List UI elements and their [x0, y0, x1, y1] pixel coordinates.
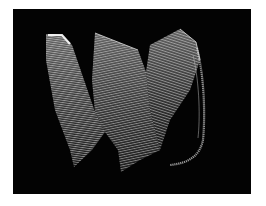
light-ribbon-graphic: [13, 9, 251, 194]
photo-frame: [13, 9, 251, 194]
